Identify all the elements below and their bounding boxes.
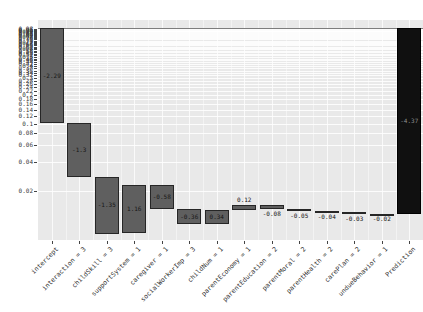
- v-gridline-minor: [176, 20, 177, 240]
- y-tick-mark: [34, 104, 37, 105]
- waterfall-bar: [232, 205, 256, 210]
- y-tick-mark: [34, 81, 37, 82]
- y-tick-mark: [34, 133, 37, 134]
- y-tick-label: 0.98: [3, 26, 33, 32]
- y-tick-mark: [34, 84, 37, 85]
- y-tick-mark: [34, 38, 37, 39]
- y-tick-mark: [34, 60, 37, 61]
- y-tick-mark: [34, 110, 37, 111]
- y-tick-mark: [34, 116, 37, 117]
- y-tick-mark: [34, 36, 37, 37]
- x-category-label: supportSystem = 1: [90, 246, 142, 298]
- y-tick-mark: [34, 191, 37, 192]
- y-tick-mark: [34, 75, 37, 76]
- x-category-label: undueBehavior = 1: [338, 246, 390, 298]
- x-tick-mark: [299, 241, 300, 244]
- y-tick-mark: [34, 48, 37, 49]
- baseline-line: [38, 28, 423, 29]
- y-tick-mark: [34, 59, 37, 60]
- y-tick-mark: [34, 39, 37, 40]
- y-tick-mark: [34, 124, 37, 125]
- v-gridline-minor: [341, 20, 342, 240]
- y-tick-mark: [34, 47, 37, 48]
- y-tick-mark: [34, 62, 37, 63]
- waterfall-bar: [287, 209, 311, 211]
- x-tick-mark: [52, 241, 53, 244]
- x-tick-mark: [354, 241, 355, 244]
- bar-value-label: 0.12: [237, 197, 251, 203]
- y-tick-mark: [34, 55, 37, 56]
- y-tick-mark: [34, 29, 37, 30]
- y-tick-label: 0.12: [3, 113, 33, 119]
- bar-value-label: -0.58: [153, 194, 171, 200]
- bar-value-label: -0.04: [318, 214, 336, 220]
- bar-value-label: -0.03: [345, 216, 363, 222]
- bar-value-label: -0.05: [290, 213, 308, 219]
- y-tick-mark: [34, 44, 37, 45]
- y-tick-label: 0.14: [3, 107, 33, 113]
- v-gridline: [382, 20, 383, 240]
- y-tick-mark: [34, 33, 37, 34]
- bar-value-label: -1.3: [72, 147, 86, 153]
- y-tick-mark: [34, 41, 37, 42]
- v-gridline: [354, 20, 355, 240]
- y-tick-mark: [34, 45, 37, 46]
- v-gridline: [327, 20, 328, 240]
- x-tick-mark: [162, 241, 163, 244]
- bar-value-label: -4.37: [400, 118, 418, 124]
- bar-value-label: 0.34: [210, 214, 224, 220]
- y-tick-mark: [34, 91, 37, 92]
- y-tick-label: 0.02: [3, 188, 33, 194]
- v-gridline-minor: [368, 20, 369, 240]
- y-tick-mark: [34, 78, 37, 79]
- y-tick-mark: [34, 49, 37, 50]
- y-tick-mark: [34, 64, 37, 65]
- y-tick-mark: [34, 57, 37, 58]
- x-tick-mark: [244, 241, 245, 244]
- v-gridline-minor: [313, 20, 314, 240]
- x-tick-mark: [409, 241, 410, 244]
- x-tick-mark: [327, 241, 328, 244]
- y-tick-mark: [34, 37, 37, 38]
- x-tick-mark: [272, 241, 273, 244]
- x-tick-mark: [79, 241, 80, 244]
- bar-value-label: -2.29: [43, 73, 61, 79]
- y-tick-label: 0.08: [3, 130, 33, 136]
- y-tick-mark: [34, 43, 37, 44]
- y-tick-mark: [34, 35, 37, 36]
- bar-value-label: -0.02: [373, 216, 391, 222]
- x-category-label: parentEconomy = 1: [200, 246, 252, 298]
- waterfall-bar: [260, 205, 284, 208]
- y-tick-mark: [34, 42, 37, 43]
- bar-value-label: -0.08: [263, 211, 281, 217]
- y-tick-mark: [34, 32, 37, 33]
- v-gridline: [217, 20, 218, 240]
- waterfall-chart: 0.020.040.060.080.10.120.140.160.180.20.…: [0, 0, 423, 312]
- y-tick-mark: [34, 87, 37, 88]
- x-tick-mark: [217, 241, 218, 244]
- y-tick-label: 0.06: [3, 142, 33, 148]
- v-gridline-minor: [286, 20, 287, 240]
- x-tick-mark: [189, 241, 190, 244]
- y-tick-mark: [34, 51, 37, 52]
- v-gridline-minor: [203, 20, 204, 240]
- bar-value-label: -1.35: [98, 202, 116, 208]
- bar-value-label: -0.36: [180, 214, 198, 220]
- y-tick-label: 0.04: [3, 159, 33, 165]
- x-tick-mark: [134, 241, 135, 244]
- y-tick-mark: [34, 162, 37, 163]
- y-tick-mark: [34, 31, 37, 32]
- y-tick-mark: [34, 31, 37, 32]
- bar-value-label: 1.16: [127, 206, 141, 212]
- y-tick-mark: [34, 145, 37, 146]
- x-tick-mark: [382, 241, 383, 244]
- y-tick-mark: [34, 54, 37, 55]
- y-tick-mark: [34, 30, 37, 31]
- v-gridline: [189, 20, 190, 240]
- x-tick-mark: [107, 241, 108, 244]
- y-tick-mark: [34, 66, 37, 67]
- y-tick-mark: [34, 52, 37, 53]
- y-tick-mark: [34, 73, 37, 74]
- y-tick-label: 0.1: [3, 121, 33, 127]
- y-tick-mark: [34, 34, 37, 35]
